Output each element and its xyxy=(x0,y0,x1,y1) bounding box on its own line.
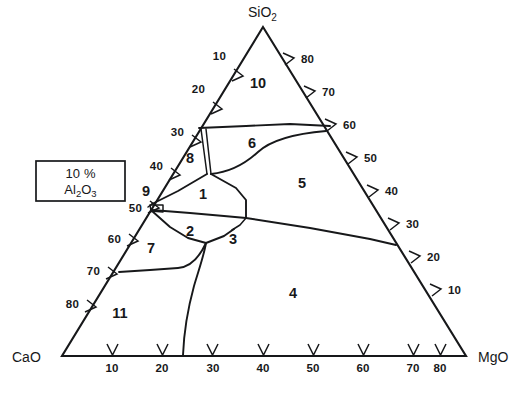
right-axis-ticks xyxy=(283,53,441,296)
right-tick-label-70: 70 xyxy=(322,86,335,98)
apex-top-sub: 2 xyxy=(271,12,277,23)
right-tick-label-50: 50 xyxy=(364,152,377,164)
field-label-11: 11 xyxy=(112,305,127,321)
field-label-7: 7 xyxy=(147,240,155,256)
field-label-3: 3 xyxy=(229,231,237,247)
right-tick-10 xyxy=(430,284,441,296)
right-tick-label-30: 30 xyxy=(406,218,419,230)
left-tick-label-80: 80 xyxy=(66,298,79,310)
field-label-10: 10 xyxy=(250,75,266,91)
bottom-tick-60 xyxy=(358,344,369,355)
boundary-7-11 xyxy=(119,243,206,272)
apex-br-base: MgO xyxy=(478,349,508,365)
apex-bl-base: CaO xyxy=(12,349,41,365)
boundary-1-2 xyxy=(152,210,246,218)
field-label-5: 5 xyxy=(298,175,306,191)
apex-label-bottom-right: MgO xyxy=(478,349,508,365)
bottom-tick-70 xyxy=(408,344,419,355)
left-tick-label-50: 50 xyxy=(129,202,142,214)
ternary-diagram-root: 10 20 30 40 50 60 70 80 10 20 30 40 50 6… xyxy=(0,0,524,415)
right-tick-30 xyxy=(388,218,399,230)
right-tick-label-60: 60 xyxy=(343,119,356,131)
left-tick-label-60: 60 xyxy=(108,233,121,245)
left-tick-label-40: 40 xyxy=(150,160,163,172)
legend-o: O xyxy=(81,182,91,197)
right-tick-20 xyxy=(409,251,420,263)
legend-sub-3: 3 xyxy=(91,188,96,199)
field-label-8: 8 xyxy=(186,150,194,166)
field-label-6: 6 xyxy=(248,135,256,151)
legend-unit: % xyxy=(84,166,96,181)
bottom-tick-label-30: 30 xyxy=(206,362,219,374)
apex-top-base: SiO xyxy=(248,4,271,20)
bottom-tick-label-70: 70 xyxy=(406,362,419,374)
boundary-2-7 xyxy=(152,211,206,243)
field-label-2: 2 xyxy=(186,223,194,239)
left-tick-label-70: 70 xyxy=(87,265,100,277)
right-tick-label-80: 80 xyxy=(301,53,314,65)
right-tick-label-10: 10 xyxy=(448,284,461,296)
legend-al: Al xyxy=(64,182,76,197)
legend-value: 10 xyxy=(65,166,79,181)
left-tick-label-30: 30 xyxy=(171,126,184,138)
legend-box: 10% Al2O3 xyxy=(36,161,125,201)
bottom-tick-label-50: 50 xyxy=(306,362,319,374)
field-label-9: 9 xyxy=(142,183,150,199)
boundary-1-3 xyxy=(211,174,246,218)
bottom-tick-20 xyxy=(157,344,168,355)
left-tick-label-10: 10 xyxy=(213,50,226,62)
bottom-tick-10 xyxy=(107,344,118,355)
right-tick-label-20: 20 xyxy=(427,251,440,263)
bottom-tick-40 xyxy=(258,344,269,355)
phase-field-labels: 1 2 3 4 5 6 7 8 9 10 11 xyxy=(112,75,306,321)
bottom-tick-label-80: 80 xyxy=(433,362,446,374)
bottom-tick-30 xyxy=(207,344,218,355)
apex-label-bottom-left: CaO xyxy=(12,349,41,365)
boundary-6-5 xyxy=(211,131,326,174)
field-label-4: 4 xyxy=(289,285,297,301)
bottom-tick-label-40: 40 xyxy=(256,362,269,374)
bottom-tick-labels: 10 20 30 40 50 60 70 80 xyxy=(105,362,446,374)
left-tick-label-20: 20 xyxy=(192,83,205,95)
field-label-1: 1 xyxy=(199,186,207,202)
bottom-axis-ticks xyxy=(107,344,446,355)
apex-label-top: SiO2 xyxy=(248,4,277,23)
bottom-tick-label-10: 10 xyxy=(105,362,118,374)
boundary-5-4 xyxy=(246,218,396,245)
right-tick-40 xyxy=(367,185,378,197)
bottom-tick-80 xyxy=(435,344,446,355)
boundary-10-6 xyxy=(199,124,330,128)
right-tick-labels: 80 70 60 50 40 30 20 10 xyxy=(301,53,461,296)
bottom-tick-label-20: 20 xyxy=(155,362,168,374)
ternary-phase-diagram: 10 20 30 40 50 60 70 80 10 20 30 40 50 6… xyxy=(0,0,524,415)
right-tick-label-40: 40 xyxy=(385,185,398,197)
bottom-tick-label-60: 60 xyxy=(356,362,369,374)
bottom-tick-50 xyxy=(308,344,319,355)
